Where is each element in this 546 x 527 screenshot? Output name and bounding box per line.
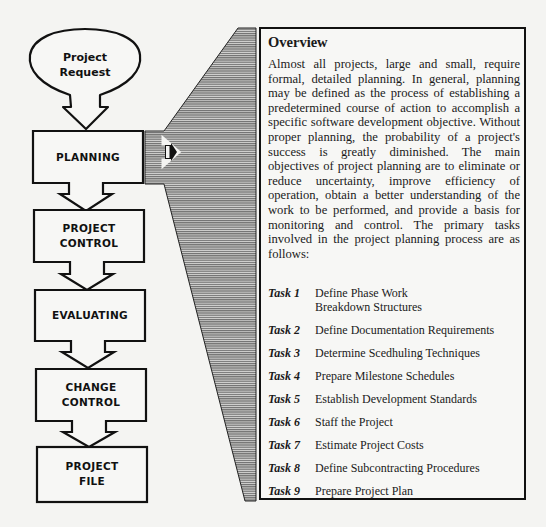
task-description: Establish Development Standards (315, 393, 515, 407)
start-label-line2: Request (45, 65, 125, 80)
task-description: Prepare Project Plan (315, 485, 515, 499)
project-control-label-line1: PROJECT (34, 221, 144, 236)
evaluating-label: EVALUATING (35, 308, 145, 323)
start-label-line1: Project (45, 50, 125, 65)
task-number: Task 8 (268, 462, 300, 476)
project-file-label-line2: FILE (37, 474, 147, 489)
task-description: Staff the Project (315, 416, 515, 430)
expansion-callout-shape (145, 28, 256, 501)
task-description: Prepare Milestone Schedules (315, 370, 515, 384)
project-control-label: PROJECT CONTROL (34, 221, 144, 251)
task-description: Define Documentation Requirements (315, 324, 515, 338)
task-number: Task 2 (268, 324, 300, 338)
start-node-label: Project Request (45, 50, 125, 80)
panel-title: Overview (268, 34, 328, 51)
change-control-label-line2: CONTROL (36, 395, 146, 410)
task-number: Task 5 (268, 393, 300, 407)
change-control-label: CHANGE CONTROL (36, 380, 146, 410)
change-control-label-line1: CHANGE (36, 380, 146, 395)
planning-label: PLANNING (33, 150, 143, 165)
task-description: Determine Scedhuling Techniques (315, 347, 515, 361)
task-number: Task 1 (268, 287, 300, 301)
task-description: Define Subcontracting Procedures (315, 462, 515, 476)
task-number: Task 6 (268, 416, 300, 430)
overview-panel: Overview Almost all projects, large and … (259, 27, 526, 500)
overview-body-text: Almost all projects, large and small, re… (268, 57, 520, 261)
task-number: Task 7 (268, 439, 300, 453)
task-description: Estimate Project Costs (315, 439, 515, 453)
planning-label-text: PLANNING (33, 150, 143, 165)
step-box-evaluating[interactable] (35, 290, 145, 368)
task-number: Task 9 (268, 485, 300, 499)
project-control-label-line2: CONTROL (34, 236, 144, 251)
task-description: Define Phase Work Breakdown Structures (315, 287, 455, 314)
evaluating-label-text: EVALUATING (35, 308, 145, 323)
step-box-planning[interactable] (33, 131, 143, 211)
project-file-label-line1: PROJECT (37, 459, 147, 474)
task-number: Task 3 (268, 347, 300, 361)
project-file-label: PROJECT FILE (37, 459, 147, 489)
task-number: Task 4 (268, 370, 300, 384)
